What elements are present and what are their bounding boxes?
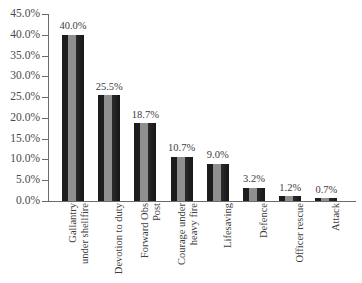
bar-value-label: 40.0% (59, 21, 86, 32)
bar[interactable] (315, 198, 337, 201)
bar-group[interactable]: 18.7% (134, 14, 156, 201)
bar[interactable] (134, 123, 156, 201)
plot-area: 40.0%25.5%18.7%10.7%9.0%3.2%1.2%0.7% (48, 14, 354, 201)
bar-group[interactable]: 1.2% (279, 14, 301, 201)
y-axis-tick-label: 10.0% (0, 154, 40, 166)
category-label: Forward ObsPost (139, 203, 163, 279)
bar-group[interactable]: 10.7% (171, 14, 193, 201)
bar-value-label: 1.2% (279, 183, 301, 194)
category-label-line: Attack (330, 203, 342, 279)
category-label: Attack (330, 203, 342, 279)
x-axis-line (42, 201, 356, 202)
bar-value-label: 9.0% (207, 150, 229, 161)
category-label-line: Gallantry (67, 203, 79, 279)
category-label-line: Courage under (176, 203, 188, 279)
y-axis-tick-label: 15.0% (0, 133, 40, 145)
bar[interactable] (171, 157, 193, 201)
category-label: Gallantryunder shellfire (67, 203, 91, 279)
bar[interactable] (62, 35, 84, 201)
y-axis-tick-label: 25.0% (0, 91, 40, 103)
y-axis-tick-label: 40.0% (0, 29, 40, 41)
y-axis-tick (42, 201, 48, 202)
category-label-line: Forward Obs (139, 203, 151, 279)
category-label: Courage underheavy fire (176, 203, 200, 279)
category-label-line: heavy fire (188, 203, 200, 279)
category-label-line: Defence (258, 203, 270, 279)
category-label-line: under shellfire (79, 203, 91, 279)
bar-group[interactable]: 9.0% (207, 14, 229, 201)
category-label: Devotion to duty (113, 203, 125, 279)
bar[interactable] (279, 196, 301, 201)
bar-value-label: 3.2% (243, 174, 265, 185)
bar-group[interactable]: 25.5% (98, 14, 120, 201)
y-axis-tick-label: 35.0% (0, 50, 40, 62)
y-axis-tick-label: 45.0% (0, 8, 40, 20)
category-label-line: Officer rescue (294, 203, 306, 279)
y-axis-tick-label: 5.0% (0, 174, 40, 186)
bar-value-label: 25.5% (96, 82, 123, 93)
y-axis-tick-label: 20.0% (0, 112, 40, 124)
bar[interactable] (207, 164, 229, 201)
category-label: Defence (258, 203, 270, 279)
category-label: Lifesaving (222, 203, 234, 279)
bar-value-label: 10.7% (168, 143, 195, 154)
category-label-line: Lifesaving (222, 203, 234, 279)
bar-chart: 0.0%5.0%10.0%15.0%20.0%25.0%30.0%35.0%40… (0, 0, 362, 283)
y-axis-tick-label: 30.0% (0, 71, 40, 83)
category-label-line: Devotion to duty (113, 203, 125, 279)
bar-value-label: 0.7% (315, 185, 337, 196)
category-label-line: Post (151, 203, 163, 279)
bar[interactable] (98, 95, 120, 201)
bar[interactable] (243, 188, 265, 201)
bar-group[interactable]: 40.0% (62, 14, 84, 201)
bar-group[interactable]: 3.2% (243, 14, 265, 201)
x-axis-category-labels: Gallantryunder shellfireDevotion to duty… (0, 203, 362, 283)
category-label: Officer rescue (294, 203, 306, 279)
bar-value-label: 18.7% (132, 110, 159, 121)
bar-group[interactable]: 0.7% (315, 14, 337, 201)
